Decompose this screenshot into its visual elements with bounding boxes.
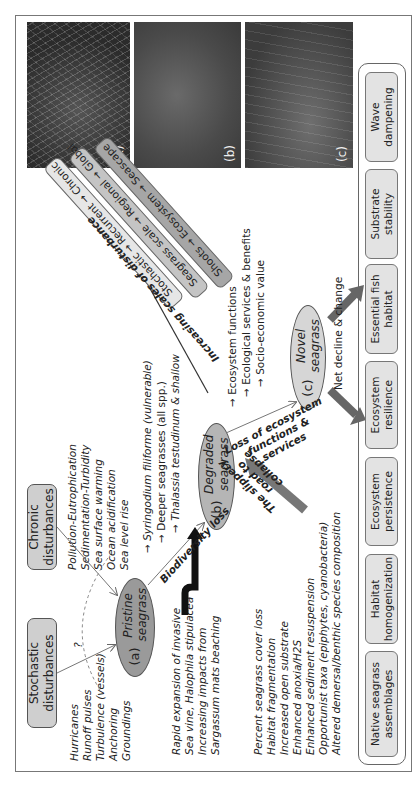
figure-landscape-canvas: (a) (b) (c) Stochastic disturbances Chro… — [0, 0, 419, 785]
stochastic-arrow — [57, 645, 115, 673]
chronic-arrow — [57, 527, 117, 595]
dashed-uncertain-arc — [82, 555, 110, 690]
outcome-ecosystem-persistence: Ecosystem persistence — [365, 457, 398, 546]
outcomes-panel: Native seagrass assemblages Habitat homo… — [358, 63, 406, 765]
outcome-habitat-homogenization: Habitat homogenization — [365, 554, 398, 644]
outcome-essential-fish-habitat: Essential fish habitat — [365, 264, 398, 354]
outcome-ecosystem-resilience: Ecosystem resilience — [365, 361, 398, 449]
outcome-wave-dampening: Wave dampening — [365, 72, 398, 162]
outcome-substrate-stability: Substrate stability — [365, 169, 398, 259]
connector-overlay — [0, 0, 419, 785]
net-decline-label: Net decline & change — [332, 277, 344, 390]
outcome-native-seagrass: Native seagrass assemblages — [365, 651, 398, 757]
